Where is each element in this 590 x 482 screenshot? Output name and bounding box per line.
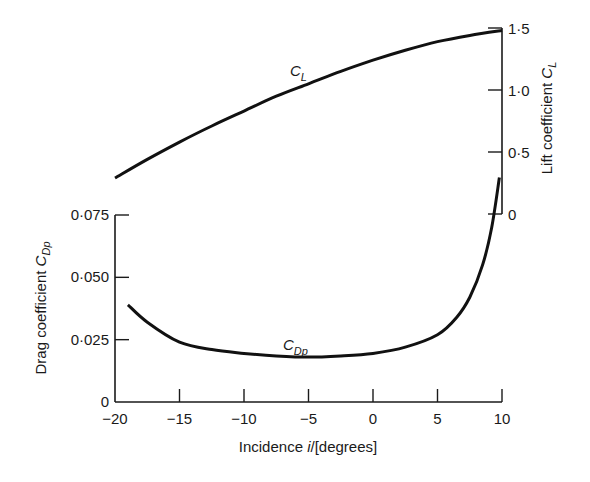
x-tick-label: −20	[102, 410, 127, 427]
incidence-coefficient-chart: 00·0250·0500·075 00·51·01·5 −20−15−10−50…	[0, 0, 590, 482]
x-tick-label: 10	[494, 410, 511, 427]
x-axis-title: Incidence i/[degrees]	[239, 438, 377, 455]
x-tick-label: −5	[300, 410, 317, 427]
drag-coefficient-curve	[128, 178, 500, 358]
x-tick-label: −15	[167, 410, 192, 427]
cdp-curve-label: CDp	[283, 336, 308, 357]
lift-coefficient-curve	[115, 31, 502, 179]
left-axis-title: Drag coefficient CDp	[32, 241, 52, 374]
cl-curve-label: CL	[290, 62, 307, 83]
x-tick-label: 0	[369, 410, 377, 427]
right-axis-ticks: 00·51·01·5	[488, 20, 530, 223]
x-tick-label: −10	[231, 410, 256, 427]
right-tick-label: 1·5	[508, 20, 530, 37]
left-axis-ticks: 00·0250·0500·075	[71, 206, 129, 410]
left-tick-label: 0·075	[71, 206, 109, 223]
left-tick-label: 0·025	[71, 331, 109, 348]
left-tick-label: 0·050	[71, 268, 109, 285]
right-axis-title: Lift coefficient CL	[538, 62, 558, 175]
right-tick-label: 0·5	[508, 144, 530, 161]
x-axis-ticks: −20−15−10−50510	[102, 389, 510, 427]
right-tick-label: 1·0	[508, 82, 530, 99]
right-tick-label: 0	[508, 206, 516, 223]
x-tick-label: 5	[433, 410, 441, 427]
left-tick-label: 0	[101, 393, 109, 410]
